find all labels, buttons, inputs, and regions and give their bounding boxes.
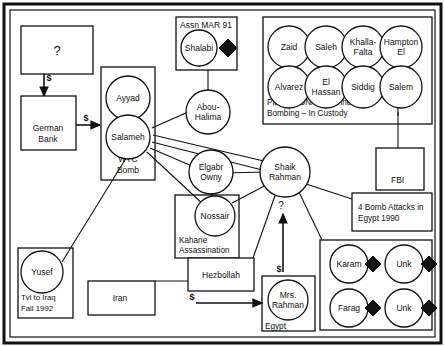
el-hassan-label-line2: Hassan: [312, 87, 341, 97]
node-abou-halima[interactable]: Abou- Halima: [186, 90, 230, 134]
node-zaid[interactable]: Zaid: [268, 26, 310, 68]
german-bank-label-line1: German: [33, 123, 64, 133]
node-salem[interactable]: Salem: [380, 66, 422, 108]
bomb-attacks-label-line1: 4 Bomb Attacks in: [358, 203, 424, 212]
shaik-rahman-label-line2: Rahman: [269, 172, 301, 182]
fbi-label: FBI: [391, 175, 404, 185]
mrs-rahman-label-line1: Mrs.: [280, 290, 297, 300]
node-nossair[interactable]: Nossair: [195, 196, 235, 236]
khalla-falta-label-line2: Falta: [354, 47, 373, 57]
yusef-note-line2: Fall 1992: [21, 304, 53, 313]
node-khalla-falta[interactable]: Khalla- Falta: [342, 26, 384, 68]
node-el-hassan[interactable]: El Hassan: [305, 66, 347, 108]
node-farag[interactable]: Farag: [330, 289, 368, 327]
node-ayyad[interactable]: Ayyad: [106, 76, 150, 120]
kahane-label-line2: Assassination: [179, 246, 230, 255]
wtc-bomb-label-line2: Bomb: [117, 165, 139, 175]
elgabr-owny-label-line2: Owny: [200, 172, 222, 182]
unk-bottom-label: Unk: [396, 303, 412, 313]
node-german-bank[interactable]: German Bank: [21, 96, 76, 150]
node-salameh[interactable]: Salameh: [106, 115, 150, 159]
alvarez-label: Alvarez: [275, 82, 303, 92]
salem-label: Salem: [389, 82, 413, 92]
mrs-rahman-label-line2: Rahman: [272, 300, 304, 310]
bomb-attacks-label-line2: Egypt 1990: [358, 214, 400, 223]
siddig-label: Siddig: [351, 82, 375, 92]
khalla-falta-label-line1: Khalla-: [350, 37, 377, 47]
link-analysis-diagram: $ $ $ $ ? ? German Bank WTC Bomb Ayyad S…: [0, 0, 445, 347]
link-shaikrahman-bombattacks: [303, 183, 352, 199]
unk-top-label: Unk: [396, 259, 412, 269]
node-karam[interactable]: Karam: [330, 245, 368, 283]
hampton-el-label-line2: El: [397, 47, 405, 57]
node-bomb-attacks-egypt[interactable]: 4 Bomb Attacks in Egypt 1990: [352, 193, 432, 231]
abou-halima-label-line1: Abou-: [197, 102, 220, 112]
flow-label-bank-to-wtc: $: [83, 113, 88, 123]
node-unk-top[interactable]: Unk: [385, 245, 423, 283]
egypt-label: Egypt: [265, 322, 287, 331]
link-shaikrahman-hezbollah: [253, 190, 277, 258]
node-saleh[interactable]: Saleh: [305, 26, 347, 68]
shaik-rahman-label-line1: Shaik: [274, 162, 296, 172]
iran-label: Iran: [113, 293, 128, 303]
assn-mar-91-label: Assn MAR 91: [180, 20, 232, 30]
karam-label: Karam: [336, 259, 361, 269]
node-unknown-source[interactable]: ?: [21, 26, 93, 74]
node-mrs-rahman[interactable]: Mrs. Rahman: [268, 280, 308, 320]
kahane-label-line1: Kahane: [179, 236, 208, 245]
node-hampton-el[interactable]: Hampton El: [380, 26, 422, 68]
custody-caption-line2: Bombing – In Custody: [267, 109, 348, 118]
hampton-el-label-line1: Hampton: [384, 37, 419, 47]
node-elgabr-owny[interactable]: Elgabr Owny: [189, 150, 233, 194]
unknown-source-label: ?: [53, 43, 60, 58]
node-alvarez[interactable]: Alvarez: [268, 66, 310, 108]
node-iran[interactable]: Iran: [88, 281, 155, 315]
shalabi-diamond-marker: [219, 39, 237, 57]
flow-label-mrsrahman-money: $: [276, 264, 281, 274]
hezbollah-label: Hezbollah: [202, 270, 240, 280]
yusef-label: Yusef: [31, 267, 53, 277]
node-yusef[interactable]: Yusef: [21, 251, 63, 293]
nossair-label: Nossair: [201, 211, 230, 221]
flow-label-iran-to-mrsrahman: $: [189, 292, 194, 302]
yusef-note-line1: Tvl to Iraq: [21, 293, 56, 302]
zaid-label: Zaid: [281, 42, 298, 52]
link-shaikrahman-diamondgroup: [298, 190, 322, 240]
abou-halima-label-line2: Halima: [195, 112, 222, 122]
elgabr-owny-label-line1: Elgabr: [199, 162, 224, 172]
node-siddig[interactable]: Siddig: [342, 66, 384, 108]
shalabi-label: Shalabi: [185, 43, 213, 53]
node-shaik-rahman[interactable]: Shaik Rahman: [260, 147, 310, 197]
node-shalabi[interactable]: Shalabi: [181, 30, 217, 66]
el-hassan-label-line1: El: [322, 77, 330, 87]
saleh-label: Saleh: [315, 42, 337, 52]
german-bank-label-line2: Bank: [38, 134, 58, 144]
flow-label-mrsrahman-query: ?: [278, 200, 284, 211]
farag-label: Farag: [338, 303, 360, 313]
ayyad-label: Ayyad: [116, 93, 140, 103]
node-unk-bottom[interactable]: Unk: [385, 289, 423, 327]
node-hezbollah[interactable]: Hezbollah: [188, 258, 254, 291]
salameh-label: Salameh: [111, 132, 145, 142]
link-salameh-abouhalima: [152, 112, 188, 128]
node-fbi[interactable]: FBI: [376, 148, 424, 190]
